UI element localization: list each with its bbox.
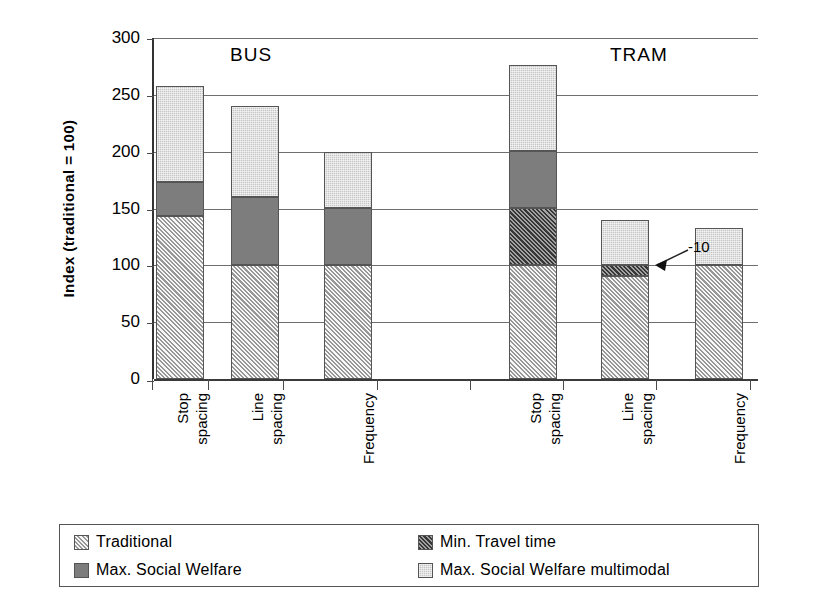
x-tick [377,379,378,390]
legend-label: Max. Social Welfare [96,561,242,579]
x-label-line1: Frequency [360,393,377,464]
x-label-bus-line-spacing: Line spacing [249,393,267,513]
x-label-line1: Line [249,393,266,421]
x-label-tram-stop-spacing: Stop spacing [527,393,545,513]
x-label-line2: spacing [268,393,285,445]
annotation-minus-ten: -10 [688,238,710,255]
x-label-bus-stop-spacing: Stop spacing [174,393,192,513]
chart-root: Index (traditional = 100) 300 250 200 15… [0,0,814,603]
legend-item-max-social-welfare-multimodal[interactable]: Max. Social Welfare multimodal [418,561,670,579]
x-tick [656,379,657,390]
x-tick [750,379,751,390]
legend-label: Max. Social Welfare multimodal [440,561,670,579]
x-tick [152,379,153,390]
x-tick [470,379,471,390]
x-label-line2: spacing [546,393,563,445]
x-label-line1: Stop [174,393,191,424]
x-label-line2: spacing [193,393,210,445]
legend-swatch-traditional-icon [74,535,89,550]
legend-swatch-min-travel-time-icon [418,535,433,550]
x-label-line1: Line [619,393,636,421]
x-tick [283,379,284,390]
x-tick [208,379,209,390]
legend-swatch-max-social-welfare-multimodal-icon [418,563,433,578]
legend-item-traditional[interactable]: Traditional [74,533,172,551]
legend: Traditional Min. Travel time Max. Social… [59,524,759,587]
legend-label: Min. Travel time [440,533,556,551]
x-tick [563,379,564,390]
x-label-bus-frequency: Frequency [360,393,378,513]
x-label-tram-line-spacing: Line spacing [619,393,637,513]
x-label-line1: Stop [527,393,544,424]
x-label-tram-frequency: Frequency [731,393,749,513]
legend-swatch-max-social-welfare-icon [74,563,89,578]
x-label-line2: spacing [638,393,655,445]
x-label-line1: Frequency [731,393,748,464]
annotation-leader-line [0,0,814,603]
legend-item-max-social-welfare[interactable]: Max. Social Welfare [74,561,242,579]
legend-label: Traditional [96,533,172,551]
legend-item-min-travel-time[interactable]: Min. Travel time [418,533,556,551]
